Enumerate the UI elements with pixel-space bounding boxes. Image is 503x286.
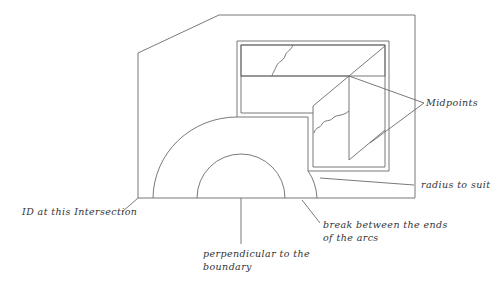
break-line-side bbox=[314, 111, 349, 133]
diagonal-top bbox=[349, 46, 385, 76]
diagonal-bottom bbox=[349, 130, 385, 160]
label-break-line1: break between the ends bbox=[323, 218, 448, 231]
break-line-upper bbox=[272, 45, 293, 76]
radius-leader bbox=[320, 178, 414, 185]
large-arc-end bbox=[308, 171, 317, 198]
label-midpoints: Midpoints bbox=[426, 96, 478, 109]
label-perpendicular-line1: perpendicular to the bbox=[203, 247, 310, 260]
midpoints-leader-1 bbox=[349, 76, 424, 103]
label-break-line2: of the arcs bbox=[323, 231, 379, 244]
label-radius-to-suit: radius to suit bbox=[421, 178, 490, 191]
midpoints-leader-2 bbox=[370, 103, 424, 143]
label-perpendicular-line2: boundary bbox=[203, 260, 252, 273]
label-id-intersection: ID at this Intersection bbox=[22, 205, 137, 218]
small-arc bbox=[197, 154, 285, 198]
side-left-diag bbox=[313, 76, 349, 106]
upper-pane bbox=[241, 45, 385, 76]
break-leader bbox=[302, 200, 320, 223]
diagram-canvas bbox=[0, 0, 503, 286]
